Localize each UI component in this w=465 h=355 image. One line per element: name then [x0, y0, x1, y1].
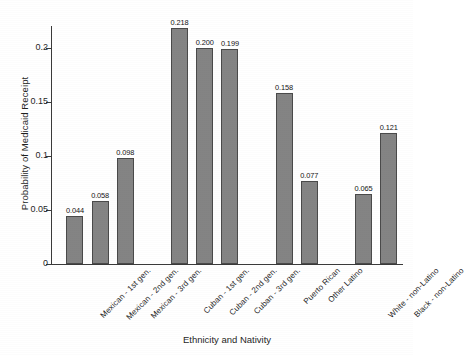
bar: 0.121	[380, 133, 397, 264]
bar-value-label: 0.044	[66, 206, 84, 215]
bar: 0.199	[221, 49, 238, 264]
bar-value-label: 0.199	[221, 39, 239, 48]
bar: 0.058	[92, 201, 109, 264]
y-tick-label: 0.15	[30, 96, 48, 106]
bar-value-label: 0.158	[275, 83, 293, 92]
bar: 0.098	[117, 158, 134, 264]
bar-value-label: 0.121	[380, 123, 398, 132]
x-axis-tick-labels: Mexican - 1st gen.Mexican - 2nd gen.Mexi…	[51, 266, 403, 332]
bar: 0.218	[171, 28, 188, 264]
y-tick-label: 0.1	[35, 150, 48, 160]
x-tick-label: Mexican - 1st gen.	[99, 266, 153, 320]
bar-value-label: 0.200	[196, 38, 214, 47]
bar: 0.200	[196, 48, 213, 264]
bars-layer: 0.0440.0580.0980.2180.2000.1990.1580.077…	[51, 20, 403, 264]
bar: 0.065	[355, 194, 372, 264]
bar: 0.158	[276, 93, 293, 264]
bar-value-label: 0.077	[300, 171, 318, 180]
bar-value-label: 0.058	[91, 191, 109, 200]
x-axis-line	[51, 264, 403, 265]
x-axis-title: Ethnicity and Nativity	[51, 334, 403, 345]
y-tick-label: 0.05	[30, 204, 48, 214]
y-tick-label: 0	[43, 258, 48, 268]
bar-value-label: 0.098	[116, 148, 134, 157]
bar: 0.044	[66, 216, 83, 264]
plot-area: 00.050.10.150.2 0.0440.0580.0980.2180.20…	[51, 20, 403, 264]
bar-value-label: 0.218	[171, 18, 189, 27]
bar: 0.077	[301, 181, 318, 264]
bar-value-label: 0.065	[354, 184, 372, 193]
y-tick-label: 0.2	[35, 42, 48, 52]
y-axis-title: Probability of Medicaid Receipt	[19, 24, 30, 264]
y-tick: 0	[51, 264, 52, 265]
